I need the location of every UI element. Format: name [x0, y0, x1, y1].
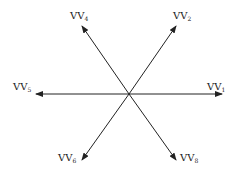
- label-vv4: VV4: [70, 11, 88, 22]
- label-subscript: 5: [27, 86, 31, 93]
- label-base: VV: [180, 152, 194, 163]
- label-base: VV: [58, 152, 72, 163]
- arrow-vv4: [82, 26, 129, 94]
- arrow-vv6: [82, 94, 129, 160]
- label-base: VV: [70, 10, 84, 21]
- label-subscript: 4: [84, 15, 88, 22]
- label-base: VV: [207, 81, 221, 92]
- arrow-vv8: [129, 94, 176, 160]
- label-subscript: 2: [187, 15, 191, 22]
- label-base: VV: [173, 10, 187, 21]
- arrow-vv2: [129, 26, 176, 94]
- label-subscript: 8: [194, 157, 198, 164]
- vector-arrows: [36, 26, 222, 160]
- label-vv2: VV2: [173, 11, 191, 22]
- label-vv1: VV1: [207, 82, 225, 93]
- label-vv5: VV5: [13, 82, 31, 93]
- label-subscript: 1: [221, 86, 225, 93]
- label-base: VV: [13, 81, 27, 92]
- label-vv6: VV6: [58, 153, 76, 164]
- label-subscript: 6: [72, 157, 76, 164]
- vector-diagram: [0, 0, 240, 177]
- label-vv8: VV8: [180, 153, 198, 164]
